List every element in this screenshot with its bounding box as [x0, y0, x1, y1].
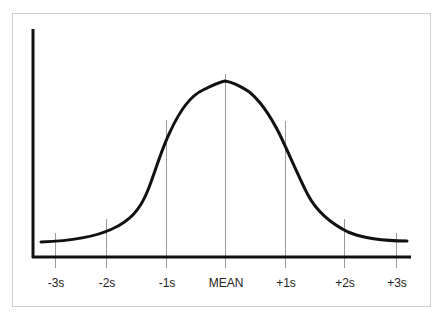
label-plus-3s: +3s [387, 276, 407, 290]
label-mean: MEAN [209, 276, 244, 290]
bell-curve-diagram [0, 0, 444, 313]
label-minus-2s: -2s [99, 276, 116, 290]
sd-reference-lines [56, 74, 397, 268]
label-minus-3s: -3s [48, 276, 65, 290]
normal-curve [41, 81, 407, 242]
label-plus-1s: +1s [276, 276, 296, 290]
label-minus-1s: -1s [159, 276, 176, 290]
label-plus-2s: +2s [335, 276, 355, 290]
